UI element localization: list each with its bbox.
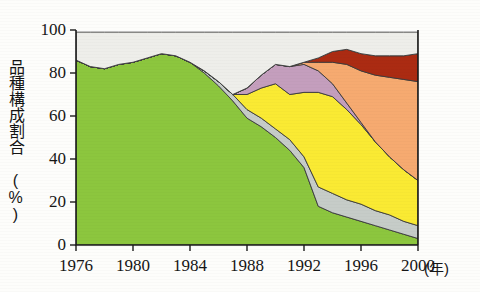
y-tick-label: 80	[49, 63, 66, 82]
y-axis-ticks	[70, 30, 76, 245]
chart-root: 品種構成割合 (%) 100806040200 1976198019841988…	[0, 0, 480, 292]
x-tick-label: 1992	[287, 256, 321, 275]
x-axis-unit-label: (年)	[424, 260, 449, 277]
y-tick-label: 100	[41, 20, 67, 39]
x-axis-ticks	[76, 245, 418, 251]
y-axis-tick-labels: 100806040200	[41, 20, 67, 254]
stacked-areas	[76, 32, 418, 245]
y-tick-label: 60	[49, 106, 66, 125]
x-tick-label: 1980	[116, 256, 150, 275]
x-tick-label: 1988	[230, 256, 264, 275]
y-tick-label: 40	[49, 149, 66, 168]
y-tick-label: 20	[49, 192, 66, 211]
y-tick-label: 0	[58, 235, 67, 254]
x-tick-label: 1976	[59, 256, 93, 275]
y-axis-label: 品種構成割合 (%)	[2, 36, 28, 246]
x-axis-tick-labels: 1976198019841988199219962000	[59, 256, 435, 275]
area-chart-plot: 100806040200 197619801984198819921996200…	[0, 0, 480, 292]
x-tick-label: 1984	[173, 256, 208, 275]
x-tick-label: 1996	[344, 256, 378, 275]
y-axis-label-text: 品種構成割合 (%)	[7, 59, 23, 223]
